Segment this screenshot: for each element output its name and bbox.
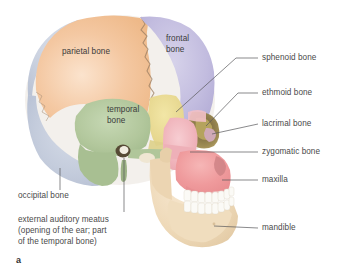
callout-label-ethmoid-bone: ethmoid bone (262, 88, 312, 99)
mental-foramen (213, 223, 216, 226)
bone-label-temporal-line1: temporal (107, 105, 139, 116)
bone-label-temporal-line2: bone (107, 116, 125, 127)
external-auditory-meatus-highlight (120, 146, 129, 154)
callout-label-zygomatic-bone: zygomatic bone (262, 147, 320, 158)
callout-label-mandible: mandible (262, 223, 296, 234)
callout-label-maxilla: maxilla (262, 175, 288, 186)
figure-letter: a (16, 255, 21, 265)
callout-label-occipital-bone: occipital bone (18, 191, 69, 202)
bone-label-frontal-line1: frontal (166, 34, 189, 45)
callout-label-sphenoid-bone: sphenoid bone (262, 53, 316, 64)
zygomatic-frontal-process (188, 110, 206, 122)
bone-label-parietal: parietal bone (62, 47, 110, 58)
bone-label-frontal-line2: bone (166, 45, 184, 56)
callout-label-external-auditory-meatus-line1: external auditory meatus (18, 215, 109, 226)
callout-label-lacrimal-bone: lacrimal bone (262, 119, 311, 130)
callout-label-external-auditory-meatus-line2: (opening of the ear; part (18, 226, 107, 237)
callout-label-external-auditory-meatus-line3: of the temporal bone) (18, 237, 97, 248)
